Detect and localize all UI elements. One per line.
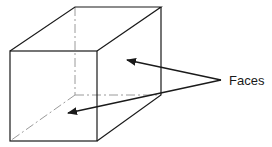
hidden-edges — [10, 7, 161, 141]
visible-edges — [10, 7, 161, 141]
cube-faces-diagram: Faces — [0, 0, 272, 147]
front-face — [10, 51, 97, 141]
hidden-depth-edge — [10, 95, 75, 141]
right-face-edges — [97, 7, 161, 141]
face-arrows — [68, 60, 221, 113]
arrow-to-side-face — [127, 60, 221, 80]
top-face-edges — [10, 7, 161, 51]
arrow-to-front-face — [68, 80, 221, 113]
faces-label: Faces — [229, 73, 265, 88]
